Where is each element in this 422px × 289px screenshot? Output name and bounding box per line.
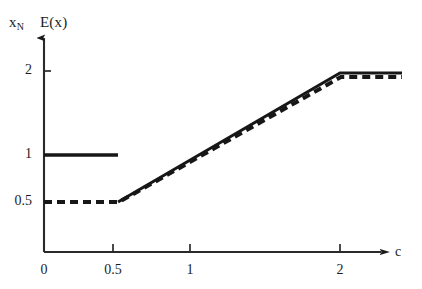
x-tick-label-1: 1 (174, 263, 206, 277)
figure-container: xN E(x) 2 1 0.5 0 0.5 1 2 c (0, 0, 422, 289)
y-axis-header-xn-sub: N (17, 21, 24, 32)
x-axis-label: c (395, 245, 401, 259)
x-tick-label-0: 0 (28, 263, 60, 277)
y-tick-label-2: 2 (0, 63, 32, 77)
y-axis-header-ex: E(x) (40, 15, 67, 30)
x-tick-label-0point5: 0.5 (92, 263, 134, 277)
x-tick-label-2: 2 (324, 263, 356, 277)
series-Ex-rising-branch (118, 73, 402, 202)
y-axis-header-xn: xN (9, 15, 24, 32)
y-tick-label-1: 1 (0, 147, 32, 161)
y-tick-label-0point5: 0.5 (0, 194, 32, 208)
y-axis-header-xn-main: x (9, 14, 17, 30)
plot-canvas (0, 0, 422, 289)
